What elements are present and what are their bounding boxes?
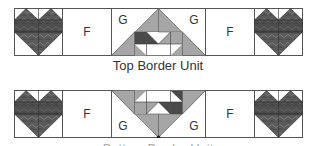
bottom-border-unit-caption: Bottom Border Unit [0,141,316,146]
block-label-f: F [83,107,90,121]
f-block-right: F [206,91,255,138]
center-block-up: G G [112,9,206,56]
bottom-border-unit: F G G [14,90,303,138]
block-label-f: F [226,25,233,39]
block-label-f: F [226,107,233,121]
top-border-unit-diagram: F G G [14,8,303,56]
center-block-down: G G [112,91,206,139]
f-block-left: F [63,91,112,138]
f-block-left: F [63,9,112,56]
heart-block-right [254,91,303,138]
block-label-f: F [83,25,90,39]
block-label-g-left: G [118,119,127,133]
block-label-g-right: G [189,13,198,27]
bottom-border-unit-diagram: F G G [14,90,303,138]
f-block-right: F [206,9,255,56]
block-label-g-right: G [189,119,198,133]
heart-block-right [254,9,303,56]
heart-block-left [14,91,63,138]
heart-block-left [14,9,63,56]
top-border-unit-caption: Top Border Unit [0,58,316,73]
top-border-unit: F G G [14,8,303,56]
block-label-g-left: G [118,13,127,27]
